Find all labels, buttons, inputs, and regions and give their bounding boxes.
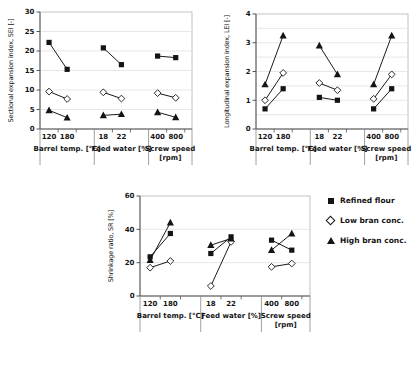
x-tick-label: 800 bbox=[284, 300, 299, 308]
y-tick-label: 10 bbox=[25, 86, 35, 94]
legend-item-high-bran: High bran conc. bbox=[326, 236, 406, 245]
diamond-marker-icon bbox=[316, 80, 323, 87]
open-diamond-marker-icon bbox=[326, 216, 336, 226]
diamond-marker-icon bbox=[64, 96, 71, 103]
legend-label: High bran conc. bbox=[340, 236, 406, 245]
square-marker-icon bbox=[389, 86, 394, 91]
series-segment bbox=[150, 234, 170, 257]
series-segment bbox=[158, 56, 176, 58]
y-tick-label: 20 bbox=[125, 259, 135, 267]
square-marker-icon bbox=[168, 231, 173, 236]
y-tick-label: 15 bbox=[25, 67, 35, 75]
diamond-marker-icon bbox=[334, 87, 341, 94]
lei-plot: 01234120180Barrel temp. [°C]1822Feed wat… bbox=[222, 8, 414, 172]
series-segment bbox=[49, 110, 67, 117]
x-tick-label: 400 bbox=[264, 300, 279, 308]
y-tick-label: 0 bbox=[246, 125, 251, 133]
series-segment bbox=[49, 42, 67, 69]
series-segment bbox=[265, 89, 283, 109]
x-group-label: [rpm] bbox=[275, 321, 297, 329]
x-group-label: Screw speed bbox=[261, 312, 311, 320]
square-marker-icon bbox=[289, 248, 294, 253]
x-tick-label: 18 bbox=[314, 133, 324, 141]
square-marker-icon bbox=[46, 40, 51, 45]
square-marker-icon bbox=[65, 67, 70, 72]
sr-chart: 0204060120180Barrel temp. [°C]1822Feed w… bbox=[106, 190, 316, 343]
x-tick-label: 22 bbox=[117, 133, 127, 141]
x-group-label: Feed water [%] bbox=[91, 145, 151, 153]
y-tick-label: 40 bbox=[125, 226, 135, 234]
x-group-label: [rpm] bbox=[159, 154, 181, 162]
diamond-marker-icon bbox=[172, 94, 179, 101]
x-tick-label: 800 bbox=[168, 133, 183, 141]
x-tick-label: 18 bbox=[206, 300, 216, 308]
series-segment bbox=[103, 114, 121, 115]
diamond-marker-icon bbox=[268, 263, 275, 270]
x-tick-label: 22 bbox=[333, 133, 343, 141]
square-marker-icon bbox=[208, 251, 213, 256]
square-marker-icon bbox=[155, 53, 160, 58]
y-axis-title: Sectional expansion index, SEI [-] bbox=[7, 19, 15, 123]
y-tick-label: 1 bbox=[246, 97, 251, 105]
sei-chart: 051015202530120180Barrel temp. [°C]1822F… bbox=[6, 6, 198, 176]
series-segment bbox=[211, 242, 231, 286]
triangle-marker-icon bbox=[388, 32, 395, 39]
legend-item-refined-flour: Refined flour bbox=[326, 196, 406, 205]
x-tick-label: 180 bbox=[163, 300, 178, 308]
square-marker-icon bbox=[173, 55, 178, 60]
y-tick-label: 60 bbox=[125, 192, 135, 200]
series-segment bbox=[150, 223, 170, 260]
y-tick-label: 0 bbox=[130, 292, 135, 300]
y-axis-title: Shrinkage ratio, SR [%] bbox=[107, 210, 115, 282]
diamond-marker-icon bbox=[154, 90, 161, 97]
diamond-marker-icon bbox=[288, 260, 295, 267]
filled-triangle-marker-icon bbox=[327, 237, 335, 244]
legend-label: Low bran conc. bbox=[340, 216, 404, 225]
y-tick-label: 3 bbox=[246, 39, 251, 47]
x-group-label: Screw speed bbox=[361, 145, 411, 153]
y-tick-label: 25 bbox=[25, 28, 35, 36]
y-tick-label: 2 bbox=[246, 68, 251, 76]
triangle-marker-icon bbox=[370, 81, 377, 88]
square-marker-icon bbox=[335, 98, 340, 103]
x-group-label: Screw speed bbox=[145, 145, 195, 153]
sei-plot: 051015202530120180Barrel temp. [°C]1822F… bbox=[6, 6, 198, 172]
diamond-marker-icon bbox=[118, 95, 125, 102]
x-group-label: Barrel temp. [°C] bbox=[137, 312, 204, 320]
y-tick-label: 5 bbox=[30, 106, 35, 114]
triangle-marker-icon bbox=[261, 81, 268, 88]
diamond-marker-icon bbox=[262, 97, 269, 104]
triangle-marker-icon bbox=[118, 110, 125, 117]
y-axis-title: Longitudinal expansion index, LEI [-] bbox=[223, 15, 231, 128]
series-segment bbox=[319, 46, 337, 75]
triangle-marker-icon bbox=[167, 219, 174, 226]
triangle-marker-icon bbox=[288, 230, 295, 237]
x-group-label: Feed water [%] bbox=[201, 312, 261, 320]
y-tick-label: 30 bbox=[25, 8, 35, 16]
lei-chart: 01234120180Barrel temp. [°C]1822Feed wat… bbox=[222, 8, 414, 176]
x-group-label: [rpm] bbox=[375, 154, 397, 162]
diamond-marker-icon bbox=[280, 70, 287, 77]
square-marker-icon bbox=[317, 95, 322, 100]
x-tick-label: 22 bbox=[226, 300, 236, 308]
x-tick-label: 180 bbox=[60, 133, 75, 141]
x-tick-label: 120 bbox=[258, 133, 273, 141]
figure-three-panel-expansion-charts: 051015202530120180Barrel temp. [°C]1822F… bbox=[0, 0, 417, 374]
triangle-marker-icon bbox=[268, 246, 275, 253]
square-marker-icon bbox=[119, 62, 124, 67]
x-tick-label: 180 bbox=[276, 133, 291, 141]
square-marker-icon bbox=[281, 86, 286, 91]
sr-plot: 0204060120180Barrel temp. [°C]1822Feed w… bbox=[106, 190, 316, 339]
square-marker-icon bbox=[101, 45, 106, 50]
filled-square-marker-icon bbox=[328, 198, 334, 204]
x-tick-label: 120 bbox=[143, 300, 158, 308]
diamond-marker-icon bbox=[167, 258, 174, 265]
legend-item-low-bran: Low bran conc. bbox=[326, 216, 406, 225]
x-tick-label: 120 bbox=[42, 133, 57, 141]
square-marker-icon bbox=[269, 238, 274, 243]
square-marker-icon bbox=[371, 106, 376, 111]
triangle-marker-icon bbox=[64, 114, 71, 121]
y-tick-label: 20 bbox=[25, 47, 35, 55]
series-segment bbox=[103, 48, 121, 65]
series-segment bbox=[319, 97, 337, 100]
